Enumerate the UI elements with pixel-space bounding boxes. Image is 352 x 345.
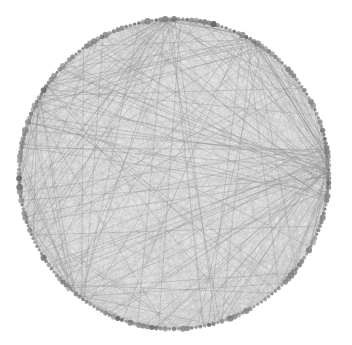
graph-node <box>27 228 32 233</box>
graph-node <box>129 24 133 28</box>
graph-node <box>33 241 36 244</box>
graph-node <box>16 176 22 182</box>
graph-node <box>322 133 326 137</box>
graph-node <box>50 267 53 270</box>
graph-node <box>168 327 172 331</box>
graph-node <box>237 31 241 35</box>
graph-node <box>154 326 159 331</box>
graph-node <box>313 236 318 241</box>
graph-node <box>189 18 194 23</box>
graph-node <box>19 194 23 198</box>
graph-node <box>320 124 324 128</box>
graph-node <box>199 325 203 329</box>
graph-node <box>324 141 328 145</box>
graph-node <box>302 256 306 260</box>
graph-node <box>41 87 47 93</box>
graph-node <box>31 237 34 240</box>
graph-node <box>145 324 150 329</box>
graph-node <box>195 326 198 329</box>
graph-node <box>22 215 28 221</box>
graph-node <box>171 16 177 22</box>
graph-node <box>256 303 259 306</box>
graph-node <box>317 116 320 119</box>
graph-node <box>176 17 180 21</box>
graph-node <box>185 18 189 22</box>
graph-node <box>318 224 322 228</box>
graph-node <box>84 44 89 49</box>
graph-node <box>124 25 128 29</box>
graph-node <box>203 324 206 327</box>
graph-node <box>119 26 124 31</box>
graph-node <box>221 25 224 28</box>
graph-node <box>155 18 159 22</box>
graph-node <box>172 327 176 331</box>
graph-node <box>77 49 81 53</box>
graph-node <box>260 300 263 303</box>
graph-node <box>315 233 318 236</box>
graph-node <box>22 133 26 137</box>
graph-node <box>181 18 184 21</box>
graph-node <box>19 145 24 150</box>
graph-node <box>71 290 74 293</box>
graph-node <box>35 245 38 248</box>
graph-node <box>124 320 127 323</box>
graph-node <box>18 164 21 167</box>
graph-node <box>185 326 190 331</box>
graph-node <box>324 145 329 150</box>
graph-node <box>92 305 95 308</box>
graph-node <box>229 28 232 31</box>
graph-node <box>252 305 255 308</box>
graph-node <box>17 168 21 172</box>
graph-node <box>127 320 133 326</box>
graph-node <box>149 325 154 330</box>
graph-node <box>47 263 51 267</box>
graph-node <box>190 326 194 330</box>
graph-node <box>323 137 327 141</box>
graph-node <box>29 111 34 116</box>
graph-node <box>112 29 116 33</box>
graph-node <box>324 193 330 199</box>
graph-node <box>305 92 308 95</box>
graph-node <box>88 303 92 307</box>
graph-node <box>163 326 168 331</box>
graph-node <box>103 311 108 316</box>
graph-node <box>307 96 310 99</box>
graph-node <box>52 271 55 274</box>
graph-node <box>177 327 181 331</box>
graph-node <box>220 319 225 324</box>
graph-node <box>277 286 281 290</box>
graph-node <box>85 300 89 304</box>
graph-node <box>133 322 137 326</box>
graph-node <box>271 293 274 296</box>
graph-node <box>27 225 30 228</box>
graph-node <box>116 27 121 32</box>
graph-node <box>295 77 299 81</box>
graph-node <box>100 309 104 313</box>
graph-node <box>211 322 215 326</box>
graph-node <box>316 228 320 232</box>
graph-node <box>96 307 100 311</box>
graph-node <box>56 71 59 74</box>
graph-node <box>224 26 228 30</box>
graph-node <box>40 92 43 95</box>
graph-node <box>20 203 23 206</box>
graph-node <box>314 108 317 111</box>
graph-node <box>302 88 306 92</box>
graph-node <box>30 233 33 236</box>
graph-node <box>81 47 84 50</box>
graph-node <box>18 198 24 204</box>
graph-node <box>44 260 47 263</box>
graph-node <box>22 127 28 133</box>
graph-node <box>81 298 84 301</box>
graph-node <box>274 290 277 293</box>
graph-node <box>327 176 332 181</box>
graph-node <box>263 298 267 302</box>
graph-node <box>324 208 327 211</box>
graph-node <box>320 128 325 133</box>
graph-node <box>31 107 36 112</box>
graph-node <box>326 185 332 191</box>
graph-node <box>306 247 312 253</box>
graph-node <box>25 119 31 125</box>
graph-node <box>21 207 24 210</box>
graph-node <box>248 307 253 312</box>
